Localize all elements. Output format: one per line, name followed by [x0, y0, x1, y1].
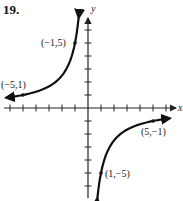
point-label: (1,−5)	[105, 168, 130, 180]
axes: xy	[4, 3, 183, 198]
data-point	[99, 171, 103, 175]
point-label: (−1,5)	[41, 37, 66, 49]
point-label: (−5,1)	[1, 79, 26, 91]
y-axis-label: y	[90, 3, 96, 14]
x-axis-label: x	[177, 102, 183, 113]
data-point	[73, 41, 77, 45]
data-point	[21, 93, 25, 97]
data-point	[151, 119, 155, 123]
graph: xy (−1,5)(−5,1)(5,−1)(1,−5)	[0, 0, 183, 201]
point-label: (5,−1)	[141, 126, 166, 138]
